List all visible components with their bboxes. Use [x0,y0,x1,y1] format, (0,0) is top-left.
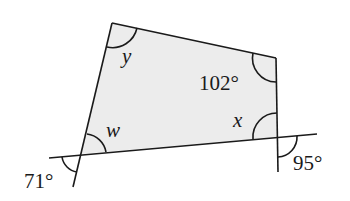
label-95: 95° [293,151,322,175]
label-x: x [232,108,243,132]
angle-arc-71 [62,157,77,172]
right-edge-extended [276,58,278,172]
label-71: 71° [24,169,53,193]
quadrilateral-diagram: y 102° x w 71° 95° [0,0,350,201]
label-y: y [120,44,132,68]
label-w: w [106,118,120,142]
label-102: 102° [199,71,239,95]
